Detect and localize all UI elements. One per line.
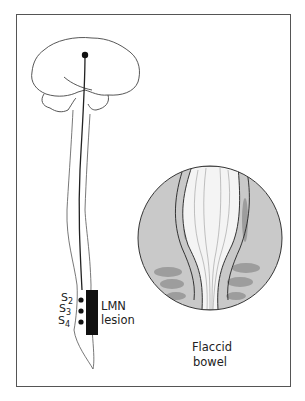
neural-tract bbox=[79, 55, 85, 290]
brain-icon bbox=[32, 38, 140, 112]
segment-dot-s4 bbox=[78, 319, 83, 324]
neuron-dot bbox=[82, 52, 88, 58]
bowel-inset bbox=[138, 166, 282, 310]
diagram-illustration bbox=[0, 0, 305, 401]
segment-dot-s2 bbox=[78, 297, 83, 302]
lesion-marker bbox=[86, 290, 98, 335]
inset-label-line2: bowel bbox=[193, 356, 227, 369]
inset-label-line1: Flaccid bbox=[192, 341, 232, 354]
segment-dot-s3 bbox=[78, 308, 83, 313]
lesion-label-line1: LMN bbox=[101, 300, 126, 313]
lesion-label-line2: lesion bbox=[101, 314, 135, 327]
segment-label-s4: S4 bbox=[58, 315, 70, 330]
